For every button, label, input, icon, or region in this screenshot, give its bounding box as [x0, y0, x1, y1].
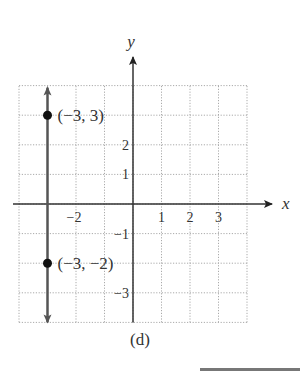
labels-layer: xy−212321−1−3(−3, 3)(−3, −2) [58, 32, 291, 301]
y-tick-label: 2 [122, 138, 129, 153]
x-tick-label: 3 [215, 210, 222, 225]
series-layer [43, 88, 52, 323]
y-axis-label: y [125, 32, 135, 51]
y-tick-label: −1 [114, 227, 129, 242]
x-tick-label: 2 [187, 210, 194, 225]
data-point [43, 259, 52, 268]
y-tick-label: −3 [114, 286, 129, 301]
y-tick-label: 1 [122, 167, 129, 182]
point-label: (−3, 3) [58, 106, 104, 125]
x-tick-label: 1 [158, 210, 165, 225]
divider [200, 368, 300, 371]
x-axis-label: x [281, 194, 290, 213]
point-label: (−3, −2) [58, 254, 114, 273]
axes [13, 57, 272, 322]
figure-caption: (d) [0, 330, 280, 350]
x-tick-label: −2 [67, 210, 82, 225]
coordinate-plane: xy−212321−1−3(−3, 3)(−3, −2) [0, 0, 305, 372]
data-point [43, 111, 52, 120]
